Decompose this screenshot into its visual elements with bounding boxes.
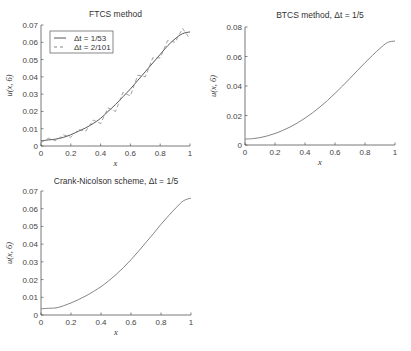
series-line [245, 41, 395, 139]
y-tick-label: 0.06 [22, 205, 38, 214]
chart-title: BTCS method, Δt = 1/5 [276, 10, 364, 20]
y-tick-label: 0.02 [226, 112, 242, 121]
x-tick-label: 0.4 [95, 318, 107, 327]
x-axis-label: x [113, 327, 118, 337]
x-tick-label: 1 [189, 318, 194, 327]
x-tick-label: 0.8 [155, 318, 167, 327]
y-tick-label: 0.05 [22, 56, 38, 65]
y-tick-label: 0.01 [22, 293, 38, 302]
series-line [41, 198, 191, 309]
x-axis-label: x [317, 157, 322, 167]
x-tick-label: 0.4 [299, 148, 311, 157]
x-tick-label: 0.4 [95, 149, 107, 158]
x-tick-label: 1 [393, 148, 398, 157]
x-axis-label: x [113, 158, 118, 168]
y-axis-label: u(x, 6) [4, 74, 14, 96]
y-tick-label: 0.04 [226, 82, 242, 91]
x-tick-label: 0.6 [125, 318, 137, 327]
y-tick-label: 0.07 [22, 21, 38, 30]
y-tick-label: 0.02 [22, 276, 38, 285]
y-tick-label: 0.02 [22, 107, 38, 116]
x-tick-label: 0.6 [329, 148, 341, 157]
y-tick-label: 0.03 [22, 90, 38, 99]
x-tick-label: 0.6 [125, 149, 137, 158]
y-tick-label: 0.05 [22, 222, 38, 231]
y-tick-label: 0 [238, 141, 243, 150]
y-tick-label: 0.01 [22, 125, 38, 134]
x-tick-label: 0 [39, 149, 44, 158]
legend-label: Δt = 2/101 [74, 43, 111, 52]
x-tick-label: 0.2 [269, 148, 281, 157]
x-tick-label: 0.8 [155, 149, 167, 158]
x-tick-label: 0.2 [65, 149, 77, 158]
y-axis-label: u(x, 6) [4, 242, 14, 264]
legend-label: Δt = 1/53 [74, 34, 107, 43]
y-tick-label: 0.06 [22, 38, 38, 47]
chart-title: FTCS method [89, 9, 142, 19]
y-tick-label: 0.08 [226, 23, 242, 32]
y-tick-label: 0 [34, 311, 39, 320]
y-tick-label: 0 [34, 142, 39, 151]
x-tick-label: 0 [243, 148, 248, 157]
figure-canvas: FTCS method00.20.40.60.8100.010.020.030.… [0, 0, 411, 351]
y-tick-label: 0.07 [22, 187, 38, 196]
y-tick-label: 0.03 [22, 258, 38, 267]
legend: Δt = 1/53Δt = 2/101 [50, 31, 113, 53]
y-tick-label: 0.04 [22, 240, 38, 249]
x-tick-label: 1 [188, 149, 193, 158]
x-tick-label: 0 [39, 318, 44, 327]
chart-1: FTCS method00.20.40.60.8100.010.020.030.… [4, 9, 193, 168]
x-tick-label: 0.2 [65, 318, 77, 327]
y-tick-label: 0.06 [226, 53, 242, 62]
chart-2: BTCS method, Δt = 1/500.20.40.60.8100.02… [208, 10, 398, 167]
x-tick-label: 0.8 [359, 148, 371, 157]
y-tick-label: 0.04 [22, 73, 38, 82]
y-axis-label: u(x, 6) [208, 75, 218, 97]
chart-title: Crank-Nicolson scheme, Δt = 1/5 [54, 176, 179, 186]
chart-3: Crank-Nicolson scheme, Δt = 1/500.20.40.… [4, 176, 194, 337]
